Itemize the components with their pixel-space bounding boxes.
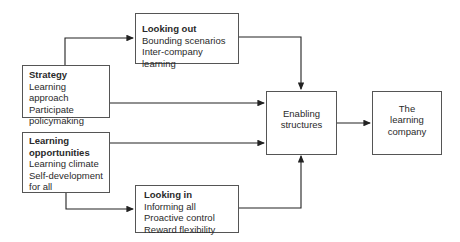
strategy-line: Learning approach bbox=[29, 81, 103, 104]
learning-company-line: The bbox=[399, 103, 415, 115]
looking-out-line: Inter-company learning bbox=[142, 46, 232, 69]
strategy-box: Strategy Learning approach Participate p… bbox=[22, 65, 110, 118]
looking-out-box: Looking out Bounding scenarios Inter-com… bbox=[135, 13, 239, 64]
learning-opportunities-line: for all bbox=[29, 181, 103, 193]
learning-opportunities-line: Learning climate bbox=[29, 158, 103, 170]
learning-opportunities-box: Learning opportunities Learning climate … bbox=[22, 132, 110, 193]
enabling-structures-line: structures bbox=[281, 119, 323, 131]
learning-company-line: company bbox=[388, 126, 427, 138]
looking-out-line: Bounding scenarios bbox=[142, 35, 232, 47]
learning-company-box: The learning company bbox=[372, 91, 442, 155]
strategy-line: Participate bbox=[29, 104, 103, 116]
looking-in-title: Looking in bbox=[144, 189, 230, 201]
enabling-structures-box: Enabling structures bbox=[266, 91, 337, 155]
looking-in-line: Proactive control bbox=[144, 212, 230, 224]
learning-opportunities-title: Learning bbox=[29, 135, 103, 147]
learning-opportunities-line: Self-development bbox=[29, 170, 103, 182]
strategy-line: policymaking bbox=[29, 115, 103, 127]
enabling-structures-line: Enabling bbox=[283, 108, 320, 120]
looking-out-title: Looking out bbox=[142, 23, 232, 35]
looking-in-line: Reward flexibility bbox=[144, 224, 230, 236]
learning-opportunities-title: opportunities bbox=[29, 147, 103, 159]
strategy-title: Strategy bbox=[29, 69, 103, 81]
looking-in-box: Looking in Informing all Proactive contr… bbox=[135, 185, 239, 233]
looking-in-line: Informing all bbox=[144, 201, 230, 213]
learning-company-line: learning bbox=[390, 114, 424, 126]
